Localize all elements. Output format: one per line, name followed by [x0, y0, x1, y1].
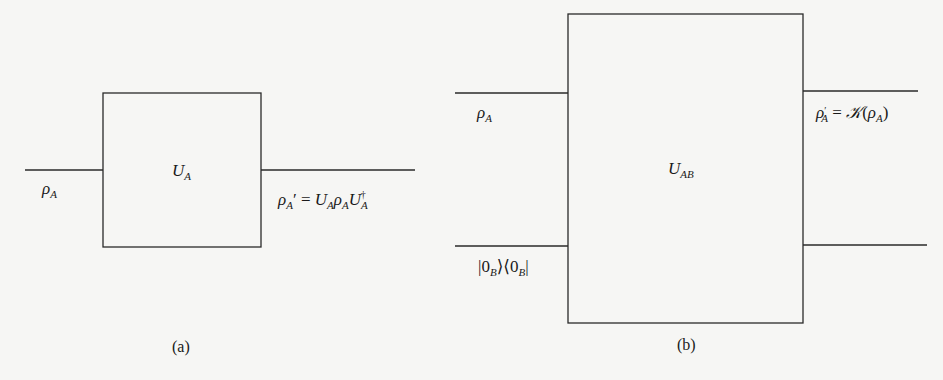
unitary-symbol: U — [315, 190, 327, 209]
rho-symbol: ρ — [868, 103, 876, 122]
ket-bra-middle: ⟩⟨0 — [497, 257, 519, 276]
rho-subscript: A — [876, 112, 883, 124]
gate-subscript: AB — [680, 168, 693, 180]
rho-symbol: ρ — [477, 103, 485, 122]
ket-open: |0 — [478, 257, 490, 276]
channel-symbol: 𝒦 — [846, 103, 862, 122]
caption-b: (b) — [677, 337, 696, 353]
dagger-mark: † — [361, 189, 366, 200]
gate-label-ua: UA — [172, 162, 191, 182]
equals-sign: = — [297, 190, 315, 209]
rho-subscript: A — [342, 199, 349, 211]
rho-subscript: A — [485, 112, 492, 124]
rho-symbol: ρ — [42, 179, 50, 198]
rho-subscript: A — [50, 188, 57, 200]
rho-prime-symbol: ρ — [278, 190, 286, 209]
input-bottom-label-b: |0B⟩⟨0B| — [478, 258, 529, 278]
rho-symbol: ρ — [334, 190, 342, 209]
rho-prime-subscript: A — [286, 199, 293, 211]
unitary-dagger-symbol: U — [349, 190, 361, 209]
gate-symbol: U — [172, 161, 184, 180]
gate-label-uab: UAB — [668, 160, 694, 180]
input-top-label-b: ρA — [477, 104, 492, 124]
caption-a: (a) — [172, 339, 190, 355]
input-label-a: ρA — [42, 180, 57, 200]
ket-subscript: B — [490, 266, 497, 278]
gate-subscript: A — [184, 170, 191, 182]
unitary-dagger-subscript: A — [361, 199, 368, 211]
bra-close: | — [525, 257, 528, 276]
gate-symbol: U — [668, 159, 680, 178]
close-paren: ) — [883, 103, 889, 122]
circuit-diagram — [0, 0, 943, 380]
equals-sign: = — [828, 103, 846, 122]
output-label-a: ρA′ = UAρAUA† — [278, 190, 366, 211]
output-top-label-b: ρ′A = 𝒦(ρA) — [816, 104, 888, 124]
unitary-subscript: A — [327, 199, 334, 211]
